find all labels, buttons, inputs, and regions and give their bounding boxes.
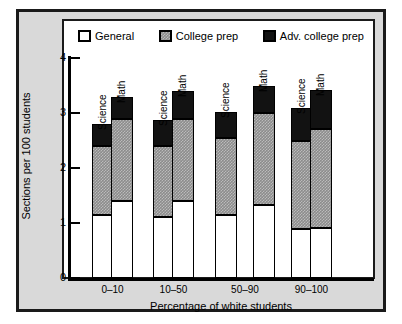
segment-college-prep [111,119,133,202]
y-tick-label: 2 [44,162,66,173]
x-category-label: 90–100 [282,284,342,295]
y-tick-label: 4 [44,52,66,63]
legend-swatch-icon [263,30,276,42]
segment-general [253,205,275,278]
x-category-label: 50–90 [215,284,275,295]
bar-subject-label: Science [220,82,231,118]
segment-general [111,201,133,278]
figure-container: GeneralCollege prepAdv. college prep 012… [0,0,402,324]
bar-subject-label: Math [177,75,188,97]
segment-college-prep [253,113,275,205]
y-tick-label: 1 [44,217,66,228]
bar-math-3[interactable] [310,90,332,278]
y-tick-label: 0 [44,272,66,283]
bar-subject-label: Math [116,80,127,102]
bar-science-2[interactable] [215,112,237,278]
y-tick-mark [71,167,80,169]
legend-label: General [95,30,134,42]
segment-general [215,215,237,278]
y-tick-mark [71,112,80,114]
segment-college-prep [215,138,237,215]
bar-subject-label: Science [97,94,108,130]
x-category-label: 0–10 [83,284,143,295]
legend-label: College prep [176,30,238,42]
legend-item-adv-college-prep: Adv. college prep [263,30,364,42]
legend-swatch-icon [159,30,172,42]
bar-subject-label: Science [158,91,169,127]
chart-plot-area: GeneralCollege prepAdv. college prep 012… [0,0,402,324]
bar-subject-label: Science [296,78,307,114]
legend-swatch-icon [78,30,91,42]
legend-label: Adv. college prep [280,30,364,42]
legend-item-general: General [78,30,134,42]
y-tick-mark [71,57,80,59]
y-axis-title: Sections per 100 students [20,86,32,226]
y-tick-label: 3 [44,107,66,118]
y-tick-mark [71,222,80,224]
bar-math-1[interactable] [172,91,194,278]
bar-subject-label: Math [315,74,326,96]
segment-college-prep [310,129,332,228]
y-tick-mark [71,277,80,279]
bar-math-2[interactable] [253,86,275,279]
legend-item-college-prep: College prep [159,30,238,42]
bar-math-0[interactable] [111,97,133,279]
x-axis-title: Percentage of white students [68,300,374,312]
segment-general [310,228,332,278]
x-axis-line [68,278,374,281]
chart-legend: GeneralCollege prepAdv. college prep [78,26,364,45]
segment-college-prep [172,119,194,202]
x-category-label: 10–50 [144,284,204,295]
bar-subject-label: Math [258,69,269,91]
segment-general [172,201,194,278]
